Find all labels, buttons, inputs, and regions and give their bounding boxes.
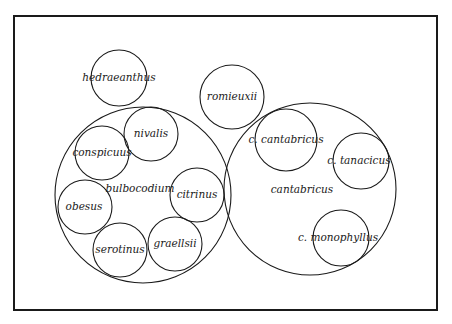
label-citrinus: citrinus <box>177 188 218 200</box>
label-cantabricus: cantabricus <box>271 183 334 195</box>
label-romieuxii: romieuxii <box>207 90 257 102</box>
label-c-tanacicus: c. tanacicus <box>327 154 391 166</box>
label-conspicuus: conspicuus <box>72 146 132 158</box>
label-c-cantabricus: c. cantabricus <box>248 133 324 145</box>
label-serotinus: serotinus <box>95 243 145 255</box>
label-c-monophyllus: c. monophyllus <box>298 231 379 243</box>
label-bulbocodium: bulbocodium <box>106 182 175 194</box>
label-hedraeanthus: hedraeanthus <box>82 71 156 83</box>
label-graellsii: graellsii <box>153 237 196 249</box>
taxonomy-diagram: hedraeanthus romieuxii bulbocodium nival… <box>0 0 452 324</box>
label-obesus: obesus <box>66 200 103 212</box>
label-nivalis: nivalis <box>134 127 169 139</box>
